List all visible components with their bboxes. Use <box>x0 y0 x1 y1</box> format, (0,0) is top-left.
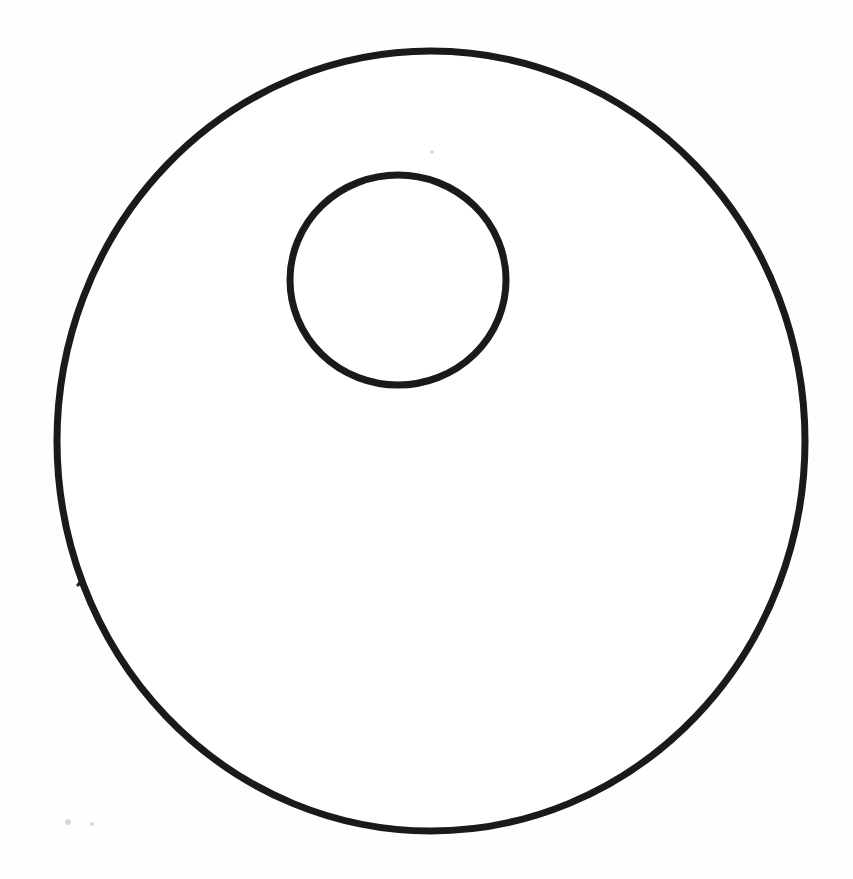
figure-canvas: Radial segmented wheel diagram <box>0 0 853 879</box>
paper-speck <box>90 822 94 826</box>
paper-speck <box>430 150 434 154</box>
inner-rim <box>290 175 506 385</box>
paper-speck <box>65 819 71 825</box>
radial-wheel-diagram: Radial segmented wheel diagram <box>0 0 853 879</box>
outer-rim <box>57 51 805 831</box>
